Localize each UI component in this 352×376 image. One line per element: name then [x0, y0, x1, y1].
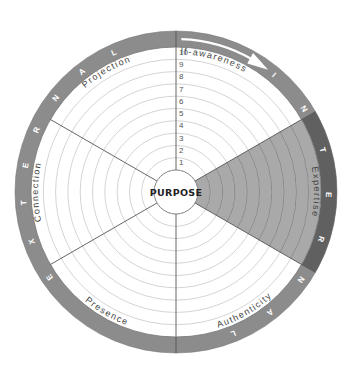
scale-number: 4 [179, 121, 184, 130]
scale-number: 8 [179, 72, 184, 81]
scale-number: 10 [179, 48, 188, 57]
band-letter: T [19, 200, 28, 206]
band-letter: E [324, 192, 333, 198]
scale-number: 6 [179, 97, 184, 106]
scale-number: 5 [179, 109, 184, 118]
scale-number: 1 [179, 158, 184, 167]
scale-number: 7 [179, 85, 184, 94]
scale-number: 2 [179, 146, 184, 155]
scale-number: 9 [179, 60, 184, 69]
purpose-wheel-diagram: INTERNALEXTERNAL Self-awarenessExpertise… [0, 0, 352, 376]
scale-number: 3 [179, 134, 184, 143]
center-label: PURPOSE [150, 187, 202, 198]
